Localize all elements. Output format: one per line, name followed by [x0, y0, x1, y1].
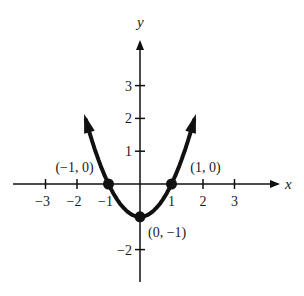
x-tick-label: −3: [35, 194, 50, 209]
x-tick-label: −2: [67, 194, 82, 209]
y-tick-label: 2: [125, 111, 132, 126]
x-tick-label: 3: [231, 194, 238, 209]
x-tick-label: 1: [168, 194, 175, 209]
point-label: (1, 0): [190, 160, 221, 176]
y-tick-label: 3: [125, 79, 132, 94]
curve-arrow-icon: [185, 114, 196, 134]
curve-arrow-icon: [84, 114, 95, 134]
point-label: (0, −1): [148, 225, 187, 241]
x-tick-label: 2: [200, 194, 207, 209]
y-axis-label: y: [135, 14, 144, 30]
point-marker: [166, 179, 177, 190]
y-tick-label: −2: [117, 243, 132, 258]
point-marker: [103, 179, 114, 190]
point-label: (−1, 0): [55, 160, 94, 176]
y-ticks: 321−2: [117, 79, 145, 258]
y-tick-label: 1: [125, 144, 132, 159]
x-axis-label: x: [284, 176, 292, 192]
parabola-chart: −3−2−1123 321−2 (−1, 0)(1, 0)(0, −1) x y: [0, 0, 304, 296]
point-marker: [135, 211, 146, 222]
x-tick-label: −1: [98, 194, 113, 209]
